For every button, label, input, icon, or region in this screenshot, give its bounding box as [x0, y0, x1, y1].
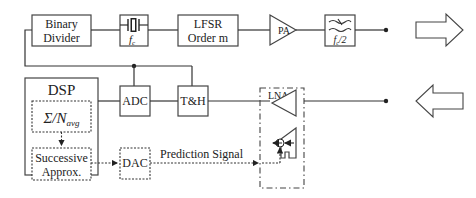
successive-approx-label-2: Approx.: [42, 165, 82, 179]
lfsr-label-2: Order m: [188, 31, 229, 45]
power-amplifier: PA: [270, 15, 296, 45]
dsp-title: DSP: [48, 82, 76, 98]
lowpass-filter-block: fc/2: [325, 15, 355, 46]
binary-divider-block: Binary Divider: [32, 15, 91, 46]
dsp-block: DSP Σ/Navg Successive Approx.: [25, 78, 98, 180]
pa-label: PA: [278, 25, 291, 36]
adc-block: ADC: [120, 86, 150, 116]
lfsr-label-1: LFSR: [194, 17, 223, 31]
rx-arrow-left-icon: [416, 85, 463, 117]
adc-label: ADC: [122, 94, 147, 108]
rx-input-node: [384, 99, 388, 103]
tx-output-node: [384, 28, 388, 32]
prediction-signal-label: Prediction Signal: [160, 147, 244, 161]
lfsr-block: LFSR Order m: [178, 15, 238, 46]
tx-arrow-right-icon: [416, 14, 463, 46]
track-hold-label: T&H: [180, 94, 206, 108]
binary-divider-label-2: Divider: [43, 31, 80, 45]
block-diagram: Binary Divider fc LFSR Order m PA fc/2: [0, 0, 476, 198]
dac-label: DAC: [122, 156, 147, 170]
filter-cutoff-label: fc/2: [333, 34, 346, 46]
crystal-oscillator-block: fc: [120, 15, 148, 47]
cancellation-subtractor: [273, 128, 296, 163]
successive-approx-label-1: Successive: [35, 151, 88, 165]
binary-divider-label-1: Binary: [45, 17, 78, 31]
track-hold-block: T&H: [178, 86, 208, 116]
dac-block: DAC: [120, 148, 150, 179]
